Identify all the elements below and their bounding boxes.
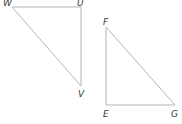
triangle-feg-outline	[106, 27, 175, 105]
vertex-label-v: V	[78, 89, 85, 99]
triangle-wuv: W U V	[3, 0, 85, 99]
vertex-label-u: U	[77, 0, 84, 8]
vertex-label-e: E	[103, 109, 109, 119]
triangle-feg: F E G	[103, 17, 178, 119]
diagram-canvas: W U V F E G	[0, 0, 182, 124]
vertex-label-g: G	[171, 109, 178, 119]
vertex-label-w: W	[3, 0, 13, 8]
vertex-label-f: F	[103, 17, 109, 27]
triangle-wuv-outline	[12, 7, 81, 86]
